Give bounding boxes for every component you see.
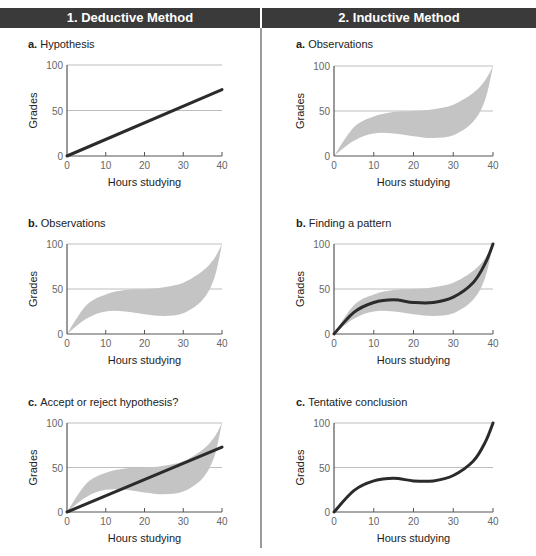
x-tick-label: 0 [331, 338, 337, 349]
y-axis-title: Grades [27, 449, 39, 486]
x-axis-title: Hours studying [377, 176, 450, 188]
x-tick-label: 10 [100, 160, 112, 171]
x-axis-title: Hours studying [108, 354, 181, 366]
x-tick-label: 0 [331, 160, 337, 171]
y-tick-label: 100 [46, 239, 63, 250]
y-tick-label: 100 [313, 61, 330, 72]
x-tick-label: 30 [448, 516, 460, 527]
x-tick-label: 40 [216, 338, 228, 349]
x-tick-label: 40 [216, 160, 228, 171]
x-tick-label: 10 [368, 338, 380, 349]
x-tick-label: 20 [408, 338, 420, 349]
y-tick-label: 0 [324, 507, 330, 518]
hypothesis-line [67, 90, 222, 156]
y-axis-title: Grades [294, 270, 306, 307]
y-tick-label: 100 [46, 60, 63, 71]
y-tick-label: 100 [313, 418, 330, 429]
charts-canvas: 010203040050100Hours studyingGrades 0102… [0, 0, 536, 556]
x-tick-label: 20 [139, 160, 151, 171]
y-axis-title: Grades [27, 92, 39, 129]
y-tick-label: 0 [324, 151, 330, 162]
chart-inductive-c: 010203040050100Hours studyingGrades [294, 418, 499, 544]
x-tick-label: 30 [448, 160, 460, 171]
x-tick-label: 20 [408, 516, 420, 527]
x-tick-label: 0 [64, 160, 70, 171]
x-tick-label: 10 [100, 338, 112, 349]
x-tick-label: 10 [368, 516, 380, 527]
y-tick-label: 100 [313, 239, 330, 250]
x-tick-label: 40 [487, 516, 499, 527]
x-tick-label: 20 [139, 516, 151, 527]
x-tick-label: 0 [64, 516, 70, 527]
y-axis-title: Grades [294, 92, 306, 129]
chart-deductive-a: 010203040050100Hours studyingGrades [27, 60, 228, 188]
x-tick-label: 20 [408, 160, 420, 171]
x-tick-label: 30 [178, 338, 190, 349]
y-tick-label: 0 [57, 329, 63, 340]
x-axis-title: Hours studying [108, 176, 181, 188]
chart-inductive-a: 010203040050100Hours studyingGrades [294, 61, 499, 188]
x-tick-label: 30 [178, 160, 190, 171]
y-tick-label: 0 [324, 329, 330, 340]
x-tick-label: 40 [216, 516, 228, 527]
x-tick-label: 10 [100, 516, 112, 527]
x-tick-label: 40 [487, 160, 499, 171]
x-tick-label: 10 [368, 160, 380, 171]
x-axis-title: Hours studying [377, 354, 450, 366]
y-tick-label: 0 [57, 507, 63, 518]
y-tick-label: 50 [319, 284, 331, 295]
y-tick-label: 50 [319, 463, 331, 474]
y-tick-label: 50 [52, 106, 64, 117]
x-tick-label: 30 [178, 516, 190, 527]
x-tick-label: 40 [487, 338, 499, 349]
chart-deductive-b: 010203040050100Hours studyingGrades [27, 239, 228, 366]
y-tick-label: 50 [52, 284, 64, 295]
chart-deductive-c: 010203040050100Hours studyingGrades [27, 418, 228, 544]
chart-inductive-b: 010203040050100Hours studyingGrades [294, 239, 499, 366]
y-tick-label: 50 [319, 106, 331, 117]
x-tick-label: 20 [139, 338, 151, 349]
y-axis-title: Grades [27, 270, 39, 307]
x-tick-label: 0 [64, 338, 70, 349]
x-axis-title: Hours studying [377, 532, 450, 544]
y-tick-label: 0 [57, 151, 63, 162]
y-tick-label: 50 [52, 463, 64, 474]
x-axis-title: Hours studying [108, 532, 181, 544]
y-axis-title: Grades [294, 449, 306, 486]
y-tick-label: 100 [46, 418, 63, 429]
x-tick-label: 30 [448, 338, 460, 349]
x-tick-label: 0 [331, 516, 337, 527]
